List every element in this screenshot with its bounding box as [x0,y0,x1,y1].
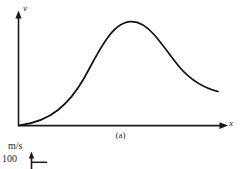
velocity-curve [20,22,219,126]
figure-caption: (a) [0,130,241,140]
next-y-axis-arrowhead [29,152,34,159]
axes-group [15,11,228,129]
x-axis-label: x [229,119,233,128]
figure-panel-a: v x (a) m/s 100 [0,0,241,169]
plot-area: v x [0,0,241,140]
velocity-vs-position-plot [0,0,241,140]
next-figure-axes [0,140,241,169]
x-axis-arrowhead [220,122,229,129]
curve-group [20,22,219,126]
next-figure-fragment: m/s 100 [0,140,241,169]
y-axis-label: v [23,4,27,13]
y-axis-arrowhead [15,11,21,19]
